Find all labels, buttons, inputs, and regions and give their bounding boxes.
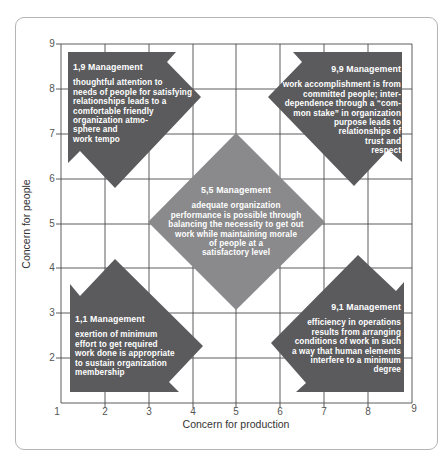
box-1-9-text: 1,9 Management thoughtful attention to n…	[73, 63, 203, 144]
box-9-1-line: conditions of work in such	[272, 337, 401, 346]
box-5-5-line: adequate organization	[166, 201, 306, 210]
y-tick-6: 6	[49, 174, 55, 184]
y-tick-7: 7	[49, 129, 55, 139]
box-1-9-line: relationships leads to a	[73, 97, 203, 106]
x-tick-8: 8	[365, 407, 371, 417]
box-5-5-title: 5,5 Management	[166, 186, 306, 195]
box-9-1-line: degree	[272, 365, 401, 374]
box-1-1-text: 1,1 Management exertion of minimum effor…	[75, 315, 195, 377]
box-1-9-line: thoughtful attention to	[73, 78, 203, 87]
box-9-9-text: 9,9 Management work accomplishment is fr…	[270, 65, 401, 156]
y-tick-2: 2	[49, 353, 55, 363]
box-9-9-title: 9,9 Management	[270, 65, 401, 74]
y-axis-title: Concern for people	[20, 179, 32, 268]
x-tick-2: 2	[102, 407, 108, 417]
box-9-1-title: 9,1 Management	[272, 303, 401, 312]
box-5-5-line: balancing the necessity to get out	[166, 220, 306, 229]
box-1-1-line: effort to get required	[75, 340, 195, 349]
box-1-9-line: comfortable friendly	[73, 107, 203, 116]
box-9-9-line: mon stake” in organization	[270, 109, 401, 118]
y-tick-4: 4	[49, 263, 55, 273]
box-9-1-text: 9,1 Management efficiency in operations …	[272, 303, 401, 375]
box-5-5-line: performance is possible through	[166, 211, 306, 220]
box-9-9-line: trust and	[270, 137, 401, 146]
box-9-9-line: respect	[270, 146, 401, 155]
box-9-9-line: relationships of	[270, 127, 401, 136]
x-tick-3: 3	[146, 407, 152, 417]
x-tick-1: 1	[54, 407, 60, 417]
box-9-9-line: committed people; inter-	[270, 90, 401, 99]
box-9-9-line: purpose leads to	[270, 118, 401, 127]
box-1-1-line: exertion of minimum	[75, 330, 195, 339]
box-1-1-title: 1,1 Management	[75, 315, 195, 324]
y-tick-9: 9	[49, 39, 55, 49]
box-1-9-line: sphere and	[73, 125, 203, 134]
box-1-9-line: needs of people for satisfying	[73, 88, 203, 97]
box-1-1-line: to sustain organization	[75, 359, 195, 368]
y-tick-8: 8	[49, 84, 55, 94]
box-5-5-line: satisfactory level	[166, 248, 306, 257]
box-1-9-title: 1,9 Management	[73, 63, 203, 72]
box-1-9-line: work tempo	[73, 135, 203, 144]
x-axis-title: Concern for production	[183, 418, 290, 430]
box-9-1-line: a way that human elements	[272, 347, 401, 356]
box-5-5-line: work while maintaining morale	[166, 230, 306, 239]
box-9-1-line: interfere to a minimum	[272, 356, 401, 365]
box-9-9-line: work accomplishment is from	[270, 80, 401, 89]
box-9-1-line: results from arranging	[272, 328, 401, 337]
box-5-5-line: of people at a	[166, 239, 306, 248]
box-1-1-line: work done is appropriate	[75, 349, 195, 358]
y-tick-5: 5	[49, 219, 55, 229]
box-1-9-line: organization atmo-	[73, 116, 203, 125]
box-9-9-line: dependence through a “com-	[270, 99, 401, 108]
x-tick-7: 7	[321, 407, 327, 417]
box-1-1-line: membership	[75, 368, 195, 377]
x-tick-9: 9	[411, 404, 417, 414]
box-9-1-line: efficiency in operations	[272, 318, 401, 327]
box-5-5-text: 5,5 Management adequate organization per…	[166, 186, 306, 258]
x-tick-4: 4	[190, 407, 196, 417]
y-tick-3: 3	[49, 308, 55, 318]
x-tick-6: 6	[277, 407, 283, 417]
x-tick-5: 5	[233, 407, 239, 417]
